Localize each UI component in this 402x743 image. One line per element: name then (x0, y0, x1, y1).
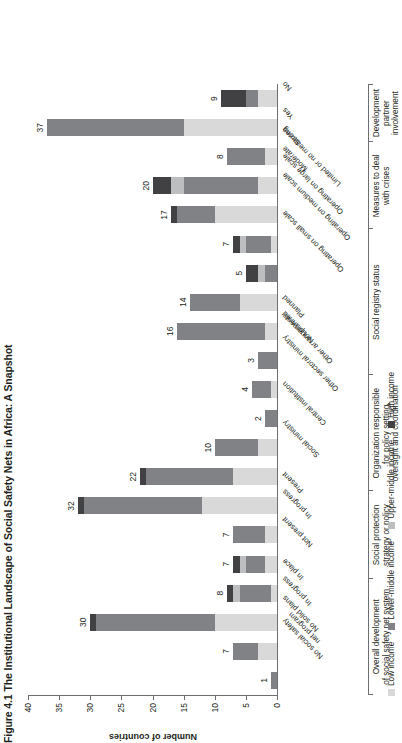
bar-segment (252, 381, 271, 398)
figure-page: Figure 4.1 The Institutional Landscape o… (0, 0, 402, 743)
bar-stack: 8 (227, 585, 277, 602)
bar-segment (271, 381, 277, 398)
bar-segment (202, 497, 277, 514)
bar-segment (258, 352, 277, 369)
y-axis-tick-label: 20 (148, 703, 158, 712)
bar-value-label: 7 (221, 649, 231, 654)
bar-segment (215, 439, 259, 456)
bar-value-label: 20 (141, 181, 151, 190)
bar-stack: 3 (258, 352, 277, 369)
bar-value-label: 1 (259, 678, 269, 683)
bar-segment (258, 643, 277, 660)
y-axis-tick: 35 (59, 696, 60, 700)
bar-stack: 2 (265, 410, 277, 427)
group-header-label: Social registry status (368, 229, 382, 374)
category-labels-layer: No social safetynet programNo solid plan… (279, 84, 369, 695)
y-axis-tick: 5 (246, 696, 247, 700)
bar-stack: 32 (78, 497, 277, 514)
bars-layer: 173087732221024316145717208379 (28, 84, 277, 695)
bar-segment (246, 236, 271, 253)
legend-label: Upper-middle income (386, 440, 396, 519)
bar-segment (227, 148, 264, 165)
bar-segment (190, 294, 240, 311)
y-axis-tick-label: 40 (23, 703, 33, 712)
bar-stack: 16 (177, 323, 277, 340)
bar-stack: 14 (190, 294, 277, 311)
bar-value-label: 32 (66, 501, 76, 510)
bar-stack: 5 (246, 265, 277, 282)
group-header-label: Organization responsiblefor policy setti… (368, 375, 401, 491)
bar-segment (240, 585, 271, 602)
bar-segment (177, 323, 264, 340)
bar-segment (96, 614, 214, 631)
chart-plot-area: Number of countries 0510152025303540 173… (28, 84, 278, 696)
legend-item: Low income (386, 642, 396, 696)
chart-legend: Low incomeLower-middle incomeUpper-middl… (386, 372, 396, 696)
bar-value-label: 5 (234, 271, 244, 276)
bar-value-label: 2 (253, 416, 263, 421)
figure-caption: Figure 4.1 The Institutional Landscape o… (2, 243, 14, 743)
bar-value-label: 22 (128, 472, 138, 481)
bar-segment (233, 468, 277, 485)
bar-value-label: 37 (35, 123, 45, 132)
bar-stack: 10 (215, 439, 277, 456)
y-axis-tick: 25 (121, 696, 122, 700)
bar-segment (240, 294, 277, 311)
bar-segment (271, 585, 277, 602)
legend-label: Low income (386, 642, 396, 686)
x-axis-baseline (277, 84, 278, 696)
bar-segment (265, 265, 277, 282)
category-tick-label: Operating on small scale (281, 209, 346, 274)
bar-segment (265, 148, 277, 165)
bar-value-label: 17 (159, 210, 169, 219)
group-headers-layer: Overall developmentof social safety net … (368, 84, 402, 695)
bar-segment (258, 439, 277, 456)
category-tick-label: No (281, 79, 294, 92)
y-axis-tick: 20 (153, 696, 154, 700)
bar-segment (233, 526, 264, 543)
bar-stack: 22 (140, 468, 277, 485)
y-axis-tick-label: 0 (272, 703, 282, 708)
bar-stack: 4 (252, 381, 277, 398)
y-axis-tick: 15 (184, 696, 185, 700)
bar-segment (153, 177, 172, 194)
bar-segment (146, 468, 233, 485)
bar-segment (215, 614, 277, 631)
y-axis-tick-label: 25 (116, 703, 126, 712)
y-axis-tick: 0 (277, 696, 278, 700)
bar-segment (177, 206, 214, 223)
y-axis-tick-label: 5 (241, 703, 251, 708)
bar-stack: 37 (47, 119, 277, 136)
bar-segment (184, 177, 259, 194)
bar-stack: 7 (233, 643, 277, 660)
legend-item: High income (386, 372, 396, 428)
bar-segment (265, 526, 277, 543)
bar-value-label: 10 (203, 443, 213, 452)
y-axis-tick: 30 (90, 696, 91, 700)
category-tick-label: Not present (281, 515, 315, 549)
bar-stack: 8 (227, 148, 277, 165)
bar-segment (258, 90, 277, 107)
category-tick-label: Social ministry (281, 418, 322, 459)
y-axis-tick-label: 35 (54, 703, 64, 712)
y-axis-tick: 10 (215, 696, 216, 700)
bar-segment (271, 672, 277, 689)
bar-segment (184, 119, 277, 136)
bar-value-label: 7 (221, 242, 231, 247)
bar-value-label: 3 (246, 358, 256, 363)
bar-stack: 9 (221, 90, 277, 107)
bar-segment (215, 206, 277, 223)
bar-stack: 7 (233, 236, 277, 253)
bar-stack: 30 (90, 614, 277, 631)
bar-segment (271, 236, 277, 253)
legend-label: Lower-middle income (386, 541, 396, 620)
legend-swatch (388, 522, 395, 529)
bar-stack: 1 (271, 672, 277, 689)
bar-segment (171, 177, 183, 194)
bar-value-label: 14 (178, 297, 188, 306)
bar-value-label: 8 (215, 154, 225, 159)
bar-segment (47, 119, 184, 136)
legend-swatch (388, 689, 395, 696)
y-axis-title: Number of countries (109, 732, 197, 742)
category-tick-label: Strong (281, 124, 303, 146)
